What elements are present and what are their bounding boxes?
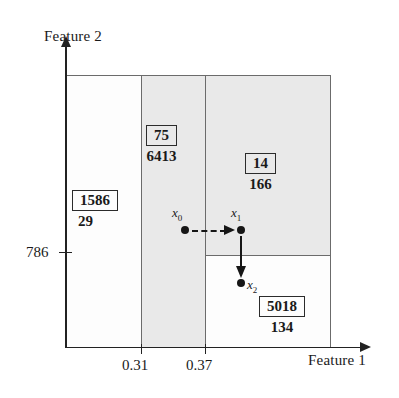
arrow-x0-to-x1-dashed	[192, 230, 226, 232]
node-annotation-75: 75 6413	[146, 125, 177, 166]
y-tick-label-786: 786	[26, 244, 49, 261]
x-tick-label-037: 0.37	[186, 357, 212, 374]
x-axis-line	[65, 347, 362, 349]
node-id-badge: 75	[146, 125, 177, 146]
data-point-label-x2: x2	[247, 277, 257, 295]
data-point-x1	[237, 226, 245, 234]
y-axis-arrowhead-icon	[61, 36, 71, 47]
y-axis-title: Feature 2	[44, 28, 102, 45]
figure-canvas: Feature 2 Feature 1 0.31 0.37 786 1586 2…	[0, 0, 399, 398]
plot-top-border	[65, 75, 330, 76]
point-label-sub: 1	[237, 213, 242, 223]
split-line-vertical-037	[205, 75, 206, 347]
x-tick-label-031: 0.31	[122, 357, 148, 374]
data-point-label-x1: x1	[231, 205, 241, 223]
x-tick-mark-037	[205, 344, 207, 354]
point-label-sub: 0	[178, 213, 183, 223]
node-count: 29	[72, 212, 118, 230]
data-point-x0	[181, 226, 189, 234]
x-tick-mark-031	[141, 344, 143, 354]
y-tick-mark-786	[59, 252, 72, 254]
node-count: 134	[259, 318, 305, 336]
plot-right-border	[330, 75, 331, 347]
node-id-badge: 5018	[259, 296, 305, 317]
data-point-label-x0: x0	[172, 205, 182, 223]
data-point-x2	[237, 279, 245, 287]
node-annotation-5018: 5018 134	[259, 296, 305, 337]
x-axis-arrowhead-icon	[360, 342, 371, 352]
arrow-x0-to-x1-arrowhead-icon	[224, 225, 235, 235]
split-line-vertical-031	[141, 75, 142, 347]
node-annotation-14: 14 166	[245, 153, 276, 194]
point-label-sub: 2	[253, 285, 258, 295]
node-id-badge: 14	[245, 153, 276, 174]
y-axis-line	[65, 46, 67, 347]
node-count: 166	[245, 175, 276, 193]
split-line-horizontal-786	[205, 255, 331, 256]
arrow-x1-to-x2-arrowhead-icon	[236, 266, 246, 278]
x-axis-title: Feature 1	[308, 352, 366, 369]
node-annotation-1586: 1586 29	[72, 190, 118, 231]
node-id-badge: 1586	[72, 190, 118, 211]
arrow-x1-to-x2-solid	[240, 236, 242, 270]
node-count: 6413	[146, 147, 177, 165]
